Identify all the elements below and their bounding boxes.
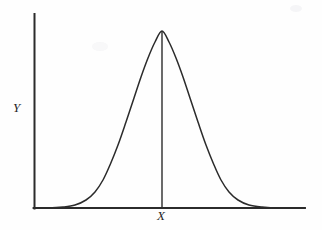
figure-canvas: Y X [0, 0, 322, 230]
x-axis-label: X [157, 209, 165, 222]
normal-distribution-curve-path [34, 31, 305, 208]
plot-svg [0, 0, 322, 230]
y-axis-label: Y [13, 101, 20, 114]
